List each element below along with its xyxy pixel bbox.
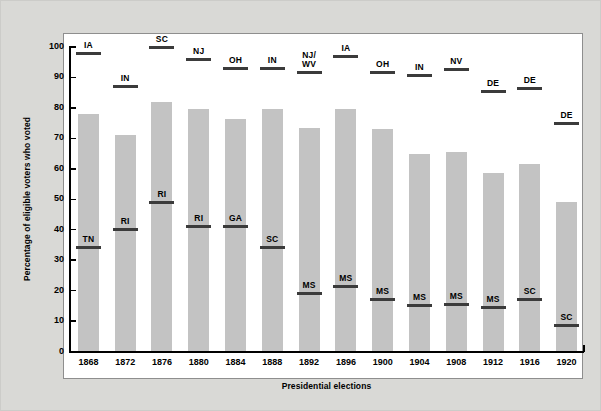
x-axis-tick-label: 1868 — [68, 357, 108, 368]
state-marker-line — [481, 90, 506, 93]
state-marker-label: IN — [252, 56, 292, 66]
y-axis-tick — [70, 77, 76, 79]
y-axis-tick-label-text: 10 — [38, 316, 64, 325]
state-marker-line — [223, 67, 248, 70]
bar — [78, 114, 99, 352]
y-axis-tick — [70, 290, 76, 292]
y-axis-tick-label-text: 50 — [38, 194, 64, 203]
x-axis-title: Presidential elections — [69, 381, 584, 391]
x-axis-tick-label: 1900 — [363, 357, 403, 368]
y-axis-tick — [70, 199, 76, 201]
state-marker-line — [444, 68, 469, 71]
bar — [299, 128, 320, 352]
y-axis-tick-label-text: 90 — [38, 72, 64, 81]
bar — [188, 109, 209, 351]
y-axis-tick-label-text: 30 — [38, 255, 64, 264]
state-marker-label: SC — [252, 235, 292, 245]
state-marker-label: NV — [436, 57, 476, 67]
state-marker-label: DE — [547, 111, 587, 121]
state-marker-line — [481, 306, 506, 309]
y-axis-tick-label: 40 — [36, 225, 64, 234]
state-marker-label: DE — [473, 79, 513, 89]
state-marker-line — [186, 58, 211, 61]
state-marker-line — [554, 122, 579, 125]
y-axis-tick-label-text: 40 — [38, 225, 64, 234]
state-marker-label: IA — [326, 44, 366, 54]
x-axis-tick-label: 1892 — [289, 357, 329, 368]
y-axis-tick-label-text: 0 — [38, 347, 64, 356]
y-axis-tick-label: 90 — [36, 72, 64, 81]
y-axis-title: Percentage of eligible voters who voted — [22, 79, 32, 319]
y-axis-tick — [70, 138, 76, 140]
y-axis-tick — [70, 107, 76, 109]
state-marker-line — [297, 71, 322, 74]
x-axis-tick-label: 1888 — [252, 357, 292, 368]
state-marker-line — [260, 67, 285, 70]
bar — [483, 173, 504, 351]
bar — [115, 135, 136, 351]
state-marker-label: MS — [289, 281, 329, 291]
y-axis-tick-label: 50 — [36, 194, 64, 203]
y-axis-tick — [70, 259, 76, 261]
state-marker-label: GA — [216, 214, 256, 224]
y-axis-tick — [70, 229, 76, 231]
state-marker-line — [260, 246, 285, 249]
state-marker-line — [186, 225, 211, 228]
bar — [335, 109, 356, 351]
bar — [409, 154, 430, 352]
y-axis-tick-label: 30 — [36, 255, 64, 264]
x-axis-tick-label: 1920 — [547, 357, 587, 368]
state-marker-label: IA — [68, 41, 108, 51]
bar — [151, 102, 172, 352]
state-marker-label: OH — [363, 60, 403, 70]
state-marker-line — [223, 225, 248, 228]
state-marker-line — [76, 246, 101, 249]
state-marker-line — [370, 298, 395, 301]
y-axis-tick-label: 100 — [36, 42, 64, 51]
state-marker-label: SC — [510, 287, 550, 297]
state-marker-line — [407, 74, 432, 77]
bar — [262, 109, 283, 351]
state-marker-label: NJ — [179, 47, 219, 57]
y-axis-tick-label: 10 — [36, 316, 64, 325]
state-marker-label: SC — [142, 35, 182, 45]
bar — [519, 164, 540, 351]
y-axis-tick-label: 0 — [36, 347, 64, 356]
state-marker-line — [76, 52, 101, 55]
state-marker-line — [113, 228, 138, 231]
state-marker-label: SC — [547, 313, 587, 323]
y-axis-tick-label-text: 20 — [38, 286, 64, 295]
x-axis-tick-label: 1904 — [399, 357, 439, 368]
state-marker-line — [444, 303, 469, 306]
y-axis-tick-label-text: 100 — [38, 42, 64, 51]
y-axis-tick — [70, 168, 76, 170]
state-marker-label: MS — [326, 274, 366, 284]
state-marker-label: OH — [216, 56, 256, 66]
chart-figure: 1009080706050403020100 18681872187618801… — [0, 0, 601, 411]
x-axis-tick-label: 1896 — [326, 357, 366, 368]
plot-area: 1009080706050403020100 18681872187618801… — [0, 0, 601, 411]
bar — [225, 119, 246, 352]
y-axis-tick-label: 60 — [36, 164, 64, 173]
state-marker-label: MS — [473, 295, 513, 305]
y-axis-tick-label: 20 — [36, 286, 64, 295]
y-axis-tick — [70, 320, 76, 322]
state-marker-line — [149, 201, 174, 204]
state-marker-line — [333, 55, 358, 58]
state-marker-line — [297, 292, 322, 295]
y-axis-tick-label: 70 — [36, 133, 64, 142]
state-marker-label: MS — [363, 287, 403, 297]
state-marker-label: MS — [399, 293, 439, 303]
state-marker-label: RI — [179, 214, 219, 224]
state-marker-label: RI — [142, 190, 182, 200]
x-axis-tick-label: 1880 — [179, 357, 219, 368]
state-marker-label: NJ/WV — [289, 51, 329, 70]
state-marker-label: DE — [510, 76, 550, 86]
x-axis-tick-label: 1908 — [436, 357, 476, 368]
y-axis-tick-label: 80 — [36, 103, 64, 112]
bar — [446, 152, 467, 351]
state-marker-line — [407, 304, 432, 307]
y-axis-tick — [70, 351, 76, 353]
state-marker-line — [149, 46, 174, 49]
bar — [556, 202, 577, 351]
